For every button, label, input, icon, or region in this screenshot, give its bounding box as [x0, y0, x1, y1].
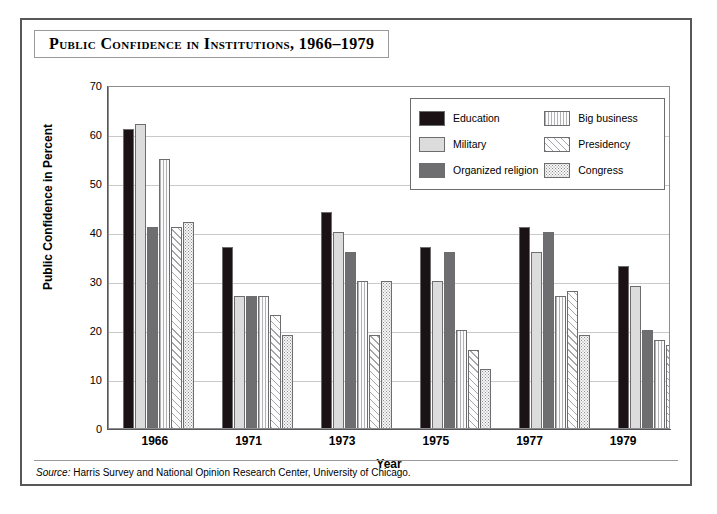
y-tick-label: 10 [74, 374, 102, 386]
bar [321, 212, 332, 428]
figure-frame: Public Confidence in Institutions, 1966–… [20, 18, 692, 486]
x-tick-label-1966: 1966 [108, 434, 202, 454]
legend-label: Big business [578, 112, 638, 124]
bar [480, 369, 491, 428]
bar [555, 296, 566, 428]
legend-swatch-icon [419, 111, 445, 126]
bar [468, 350, 479, 428]
y-tick-label: 60 [74, 129, 102, 141]
x-tick-label-1977: 1977 [483, 434, 577, 454]
y-tick-label: 20 [74, 325, 102, 337]
bar [519, 227, 530, 428]
legend-label: Presidency [578, 138, 630, 150]
legend-item-presidency[interactable]: Presidency [544, 131, 656, 157]
legend-label: Organized religion [453, 164, 538, 176]
source-note: Source: Harris Survey and National Opini… [36, 467, 411, 478]
legend-swatch-icon [544, 163, 570, 178]
bar [531, 252, 542, 428]
bar [456, 330, 467, 428]
legend-item-organized-religion[interactable]: Organized religion [419, 157, 538, 183]
bar [381, 281, 392, 428]
x-axis-line [107, 429, 671, 430]
bar-group-1966 [109, 87, 208, 428]
y-tick-label: 70 [74, 80, 102, 92]
bar [222, 247, 233, 428]
bar [159, 159, 170, 429]
bar [432, 281, 443, 428]
y-tick-label: 0 [74, 423, 102, 435]
legend-label: Congress [578, 164, 623, 176]
x-axis-tick-labels: 196619711973197519771979 [108, 434, 670, 454]
bar [567, 291, 578, 428]
legend-item-big-business[interactable]: Big business [544, 105, 656, 131]
legend-swatch-icon [544, 137, 570, 152]
bar [282, 335, 293, 428]
legend-item-education[interactable]: Education [419, 105, 538, 131]
legend-swatch-icon [419, 163, 445, 178]
legend-swatch-icon [419, 137, 445, 152]
bar [618, 266, 629, 428]
bar [183, 222, 194, 428]
bar [246, 296, 257, 428]
bar [369, 335, 380, 428]
x-tick-label-1971: 1971 [202, 434, 296, 454]
legend-label: Military [453, 138, 486, 150]
y-tick-label: 30 [74, 276, 102, 288]
bar [135, 124, 146, 428]
bar [270, 315, 281, 428]
bar [258, 296, 269, 428]
y-axis-title: Public Confidence in Percent [41, 67, 55, 347]
legend-swatch-icon [544, 111, 570, 126]
legend-item-congress[interactable]: Congress [544, 157, 656, 183]
chart-title-box: Public Confidence in Institutions, 1966–… [34, 30, 389, 58]
bar [666, 345, 670, 428]
y-tick-label: 40 [74, 227, 102, 239]
y-axis-ticks: 010203040506070 [72, 86, 102, 429]
bar [444, 252, 455, 428]
bar [654, 340, 665, 428]
bar [642, 330, 653, 428]
bar [147, 227, 158, 428]
bar [171, 227, 182, 428]
bar [333, 232, 344, 428]
bar [234, 296, 245, 428]
source-text: Harris Survey and National Opinion Resea… [70, 467, 410, 478]
x-tick-label-1975: 1975 [389, 434, 483, 454]
page-title: Public Confidence in Institutions, 1966–… [49, 35, 374, 53]
bar [357, 281, 368, 428]
source-divider [34, 460, 678, 461]
bar [630, 286, 641, 428]
chart-legend: EducationBig businessMilitaryPresidencyO… [410, 98, 665, 190]
bar [543, 232, 554, 428]
y-tick-label: 50 [74, 178, 102, 190]
legend-label: Education [453, 112, 500, 124]
bar [579, 335, 590, 428]
x-tick-label-1979: 1979 [576, 434, 670, 454]
x-tick-label-1973: 1973 [295, 434, 389, 454]
bar-group-1971 [208, 87, 307, 428]
bar [420, 247, 431, 428]
bar [123, 129, 134, 428]
source-label: Source: [36, 467, 70, 478]
bar [345, 252, 356, 428]
legend-item-military[interactable]: Military [419, 131, 538, 157]
bar-group-1973 [307, 87, 406, 428]
